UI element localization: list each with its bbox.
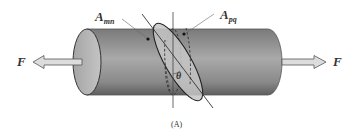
axial-bar-diagram: F F θ Amn Apq (A) — [0, 0, 359, 137]
angle-label-theta: θ — [176, 70, 182, 81]
label-a-mn: Amn — [94, 9, 115, 26]
force-arrow-right — [282, 56, 326, 69]
label-a-pq: Apq — [219, 7, 237, 24]
force-label-right: F — [332, 54, 342, 69]
point-pq — [182, 32, 185, 35]
figure-caption: (A) — [171, 120, 182, 129]
force-label-left: F — [16, 54, 26, 69]
